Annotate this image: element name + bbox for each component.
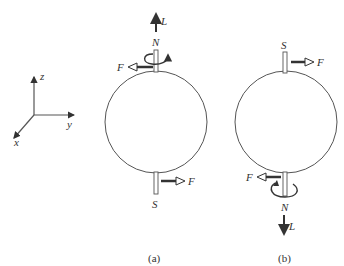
- caption-b: (b): [278, 252, 291, 265]
- bottom-force-label-a: F: [187, 175, 195, 187]
- z-axis-label: z: [39, 70, 45, 82]
- sphere-a: [105, 71, 207, 173]
- top-pole-label-b: S: [281, 39, 287, 51]
- bottom-pole-label-b: N: [280, 201, 289, 213]
- angular-momentum-label-b: L: [288, 220, 295, 232]
- top-stem-a: [154, 50, 158, 72]
- top-pole-label-a: N: [151, 36, 160, 48]
- magnet-torque-diagram: z y x L N F F S (a) S F: [0, 0, 344, 266]
- bottom-stem-a: [154, 172, 158, 194]
- x-axis-label: x: [13, 136, 19, 148]
- top-force-head-a: [128, 63, 137, 71]
- bottom-force-label-b: F: [245, 171, 253, 183]
- sphere-b: [235, 71, 337, 173]
- bottom-stem-b: [283, 172, 287, 196]
- top-stem-b: [283, 52, 287, 73]
- angular-momentum-label-a: L: [160, 15, 167, 27]
- bottom-force-head-a: [176, 177, 185, 185]
- bottom-pole-label-a: S: [152, 198, 158, 210]
- coordinate-axes: z y x: [13, 70, 74, 148]
- caption-a: (a): [148, 252, 161, 265]
- panel-b: S F F N L (b): [235, 39, 337, 265]
- bottom-force-head-b: [257, 173, 266, 181]
- y-axis-label: y: [66, 118, 72, 130]
- x-axis: [14, 115, 34, 138]
- top-force-label-a: F: [116, 61, 124, 73]
- top-force-head-b: [305, 58, 314, 66]
- top-force-label-b: F: [316, 56, 324, 68]
- panel-a: L N F F S (a): [105, 14, 207, 265]
